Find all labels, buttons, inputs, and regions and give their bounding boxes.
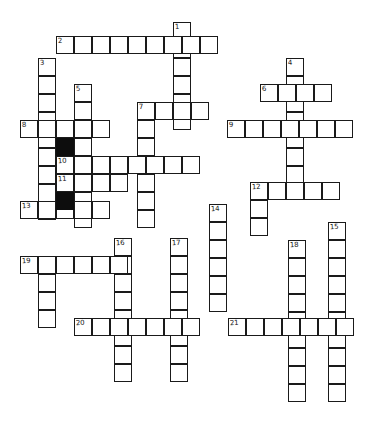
grid-cell[interactable] xyxy=(209,240,227,258)
grid-cell[interactable] xyxy=(137,210,155,228)
grid-cell[interactable] xyxy=(164,156,182,174)
grid-cell[interactable] xyxy=(92,120,110,138)
grid-cell[interactable] xyxy=(38,292,56,310)
grid-cell[interactable] xyxy=(173,58,191,76)
grid-cell[interactable] xyxy=(92,36,110,54)
grid-cell[interactable] xyxy=(304,182,322,200)
grid-cell[interactable] xyxy=(74,120,92,138)
grid-cell[interactable] xyxy=(299,120,317,138)
grid-cell[interactable] xyxy=(288,294,306,312)
grid-cell[interactable] xyxy=(328,366,346,384)
grid-cell[interactable] xyxy=(209,222,227,240)
grid-cell[interactable] xyxy=(191,102,209,120)
grid-cell[interactable] xyxy=(245,120,263,138)
grid-cell[interactable] xyxy=(128,156,146,174)
grid-cell[interactable] xyxy=(92,156,110,174)
grid-cell[interactable] xyxy=(170,274,188,292)
grid-cell[interactable] xyxy=(92,201,110,219)
grid-cell[interactable] xyxy=(137,174,155,192)
grid-cell[interactable] xyxy=(318,318,336,336)
grid-cell[interactable] xyxy=(263,120,281,138)
grid-cell[interactable] xyxy=(38,94,56,112)
grid-cell[interactable] xyxy=(38,120,56,138)
grid-cell[interactable] xyxy=(228,318,246,336)
grid-cell[interactable] xyxy=(286,148,304,166)
grid-cell[interactable] xyxy=(146,36,164,54)
grid-cell[interactable] xyxy=(288,366,306,384)
grid-cell[interactable] xyxy=(328,294,346,312)
grid-cell[interactable] xyxy=(114,292,132,310)
grid-cell[interactable] xyxy=(38,274,56,292)
grid-cell[interactable] xyxy=(38,256,56,274)
grid-cell[interactable] xyxy=(328,222,346,240)
grid-cell[interactable] xyxy=(110,256,128,274)
grid-cell[interactable] xyxy=(164,36,182,54)
grid-cell[interactable] xyxy=(56,256,74,274)
grid-cell[interactable] xyxy=(182,36,200,54)
grid-cell[interactable] xyxy=(56,174,74,192)
grid-cell[interactable] xyxy=(110,174,128,192)
grid-cell[interactable] xyxy=(209,258,227,276)
grid-cell[interactable] xyxy=(74,156,92,174)
grid-cell[interactable] xyxy=(146,156,164,174)
grid-cell[interactable] xyxy=(114,346,132,364)
grid-cell[interactable] xyxy=(182,156,200,174)
grid-cell[interactable] xyxy=(74,138,92,156)
grid-cell[interactable] xyxy=(38,148,56,166)
grid-cell[interactable] xyxy=(288,276,306,294)
grid-cell[interactable] xyxy=(328,384,346,402)
grid-cell[interactable] xyxy=(74,201,92,219)
grid-cell[interactable] xyxy=(38,201,56,219)
grid-cell[interactable] xyxy=(155,102,173,120)
grid-cell[interactable] xyxy=(114,238,132,256)
grid-cell[interactable] xyxy=(74,174,92,192)
grid-cell[interactable] xyxy=(128,36,146,54)
grid-cell[interactable] xyxy=(74,36,92,54)
grid-cell[interactable] xyxy=(170,238,188,256)
grid-cell[interactable] xyxy=(296,84,314,102)
grid-cell[interactable] xyxy=(335,120,353,138)
grid-cell[interactable] xyxy=(137,120,155,138)
grid-cell[interactable] xyxy=(114,274,132,292)
grid-cell[interactable] xyxy=(56,36,74,54)
grid-cell[interactable] xyxy=(328,276,346,294)
grid-cell[interactable] xyxy=(137,138,155,156)
grid-cell[interactable] xyxy=(250,182,268,200)
grid-cell[interactable] xyxy=(74,318,92,336)
grid-cell[interactable] xyxy=(328,258,346,276)
grid-cell[interactable] xyxy=(286,58,304,76)
grid-cell[interactable] xyxy=(56,120,74,138)
grid-cell[interactable] xyxy=(74,256,92,274)
grid-cell[interactable] xyxy=(20,201,38,219)
grid-cell[interactable] xyxy=(110,318,128,336)
grid-cell[interactable] xyxy=(164,318,182,336)
grid-cell[interactable] xyxy=(170,346,188,364)
grid-cell[interactable] xyxy=(114,364,132,382)
grid-cell[interactable] xyxy=(288,240,306,258)
grid-cell[interactable] xyxy=(74,102,92,120)
grid-cell[interactable] xyxy=(288,258,306,276)
grid-cell[interactable] xyxy=(246,318,264,336)
grid-cell[interactable] xyxy=(281,120,299,138)
grid-cell[interactable] xyxy=(328,240,346,258)
grid-cell[interactable] xyxy=(282,318,300,336)
grid-cell[interactable] xyxy=(250,218,268,236)
grid-cell[interactable] xyxy=(38,184,56,202)
grid-cell[interactable] xyxy=(268,182,286,200)
grid-cell[interactable] xyxy=(38,58,56,76)
grid-cell[interactable] xyxy=(173,102,191,120)
grid-cell[interactable] xyxy=(200,36,218,54)
grid-cell[interactable] xyxy=(264,318,282,336)
grid-cell[interactable] xyxy=(209,294,227,312)
grid-cell[interactable] xyxy=(173,76,191,94)
grid-cell[interactable] xyxy=(170,256,188,274)
grid-cell[interactable] xyxy=(209,204,227,222)
grid-cell[interactable] xyxy=(92,318,110,336)
crossword-grid[interactable]: 123456789101112131415161718192021 xyxy=(0,0,380,434)
grid-cell[interactable] xyxy=(137,102,155,120)
grid-cell[interactable] xyxy=(137,192,155,210)
grid-cell[interactable] xyxy=(314,84,332,102)
grid-cell[interactable] xyxy=(182,318,200,336)
grid-cell[interactable] xyxy=(20,120,38,138)
grid-cell[interactable] xyxy=(322,182,340,200)
